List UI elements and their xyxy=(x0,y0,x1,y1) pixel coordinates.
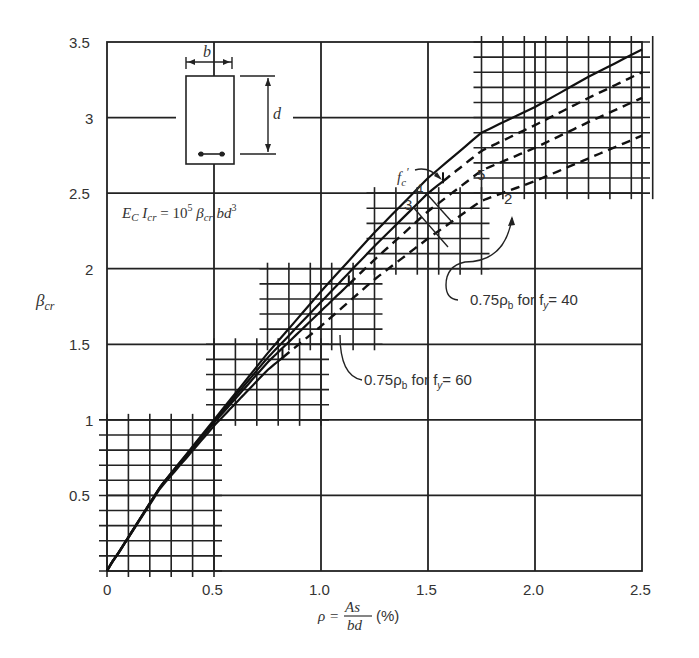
fc-legend-label: fc′ xyxy=(397,165,409,188)
y-axis-label: βcr xyxy=(35,291,55,313)
svg-text:0: 0 xyxy=(103,581,111,598)
beta-cr-chart: 00.51.01.52.02.50.511.522.533.5 b d EC I… xyxy=(0,0,699,658)
svg-text:0.75ρb for fy= 40: 0.75ρb for fy= 40 xyxy=(470,291,578,311)
svg-text:1.5: 1.5 xyxy=(69,336,90,353)
svg-text:1.0: 1.0 xyxy=(309,581,330,598)
curve-label-2: 2 xyxy=(504,190,512,207)
svg-text:0.5: 0.5 xyxy=(202,581,223,598)
svg-text:2.5: 2.5 xyxy=(630,581,651,598)
beam-section-inset: b d xyxy=(186,43,282,164)
svg-text:0.75ρb for fy= 60: 0.75ρb for fy= 60 xyxy=(364,371,472,391)
svg-text:2: 2 xyxy=(85,261,93,278)
axis-ticks: 00.51.01.52.02.50.511.522.533.5 xyxy=(69,34,651,598)
x-axis-label: ρ = As bd (%) xyxy=(317,599,399,633)
svg-text:3: 3 xyxy=(85,110,93,127)
inset-b-label: b xyxy=(203,43,211,60)
inset-d-label: d xyxy=(273,105,282,122)
formula: EC Icr = 105 βcr bd3 xyxy=(121,202,237,223)
curve-label-3: 3 xyxy=(404,196,412,213)
svg-text:bd: bd xyxy=(347,617,363,633)
annotation-fy40: 0.75ρb for fy= 40 xyxy=(446,216,578,311)
svg-text:ρ =: ρ = xyxy=(317,608,339,624)
svg-text:(%): (%) xyxy=(376,607,399,624)
curve-4-dashed xyxy=(443,72,642,181)
svg-text:0.5: 0.5 xyxy=(69,487,90,504)
curve-3 xyxy=(107,284,349,571)
curve-label-4: 4 xyxy=(415,180,423,197)
svg-text:As: As xyxy=(344,599,360,615)
leader-3 xyxy=(413,207,448,247)
svg-text:2.5: 2.5 xyxy=(69,185,90,202)
svg-text:3.5: 3.5 xyxy=(69,34,90,51)
svg-text:2.0: 2.0 xyxy=(523,581,544,598)
curve-label-5: 5 xyxy=(477,166,485,183)
svg-text:1.5: 1.5 xyxy=(416,581,437,598)
svg-text:1: 1 xyxy=(85,412,93,429)
